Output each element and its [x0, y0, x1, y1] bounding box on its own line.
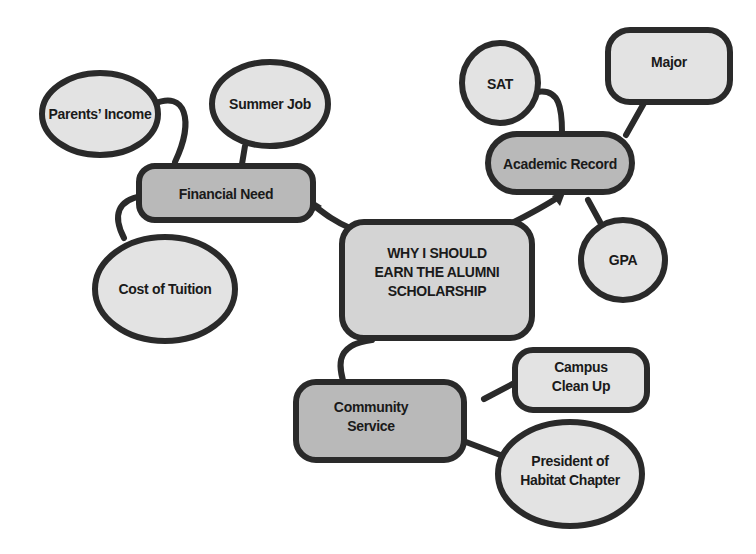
label-summer-job: Summer Job	[214, 90, 326, 118]
connector-summer-financial	[242, 146, 245, 164]
label-center: WHY I SHOULD EARN THE ALUMNI SCHOLARSHIP	[342, 244, 532, 301]
campus-line-2: Clean Up	[552, 377, 610, 396]
label-major: Major	[608, 48, 730, 76]
label-sat: SAT	[470, 70, 530, 98]
president-line-2: Habitat Chapter	[520, 471, 620, 490]
center-line-2: EARN THE ALUMNI	[375, 263, 500, 282]
center-line-3: SCHOLARSHIP	[388, 282, 487, 301]
label-cost-of-tuition: Cost of Tuition	[100, 275, 230, 303]
label-president-habitat: President of Habitat Chapter	[500, 452, 640, 490]
label-gpa: GPA	[585, 246, 661, 274]
label-campus-clean-up: Campus Clean Up	[515, 358, 647, 396]
community-line-2: Service	[347, 417, 395, 436]
community-line-1: Community	[334, 398, 408, 417]
campus-line-1: Campus	[554, 358, 607, 377]
president-line-1: President of	[531, 452, 608, 471]
label-financial-need: Financial Need	[139, 180, 313, 208]
label-parents-income: Parents’ Income	[44, 100, 156, 128]
label-community-service: Community Service	[296, 398, 446, 436]
connector-center-academic	[510, 196, 560, 224]
connector-academic-gpa	[588, 200, 600, 222]
connector-community-president	[466, 442, 503, 456]
connector-sat-academic	[537, 92, 562, 132]
center-line-1: WHY I SHOULD	[387, 244, 487, 263]
label-academic-record: Academic Record	[488, 150, 632, 178]
